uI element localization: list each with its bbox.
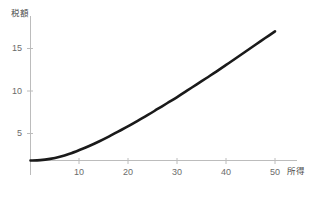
x-tick-label-30: 30 [168, 167, 186, 177]
x-tick-label-20: 20 [119, 167, 137, 177]
tax-curve [31, 31, 276, 160]
x-tick-label-50: 50 [266, 167, 284, 177]
x-tick-label-40: 40 [217, 167, 235, 177]
tax-income-chart: 税額 所得 5 10 15 10 20 30 40 50 [0, 0, 316, 208]
y-tick-label-10: 10 [6, 86, 22, 96]
y-tick-label-5: 5 [6, 128, 22, 138]
x-tick-label-10: 10 [70, 167, 88, 177]
x-axis-label: 所得 [287, 164, 305, 176]
y-axis-label: 税額 [11, 6, 29, 18]
y-tick-label-15: 15 [6, 43, 22, 53]
